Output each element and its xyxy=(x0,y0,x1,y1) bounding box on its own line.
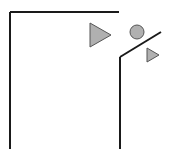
small-triangle-icon xyxy=(147,48,159,62)
large-triangle-icon xyxy=(90,23,111,47)
diagram-canvas xyxy=(0,0,174,149)
circle-icon xyxy=(130,25,144,39)
